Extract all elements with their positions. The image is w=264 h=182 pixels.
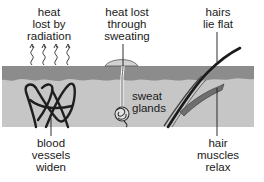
label-line: glands bbox=[132, 102, 166, 114]
label-line: hairs bbox=[190, 6, 246, 18]
label-sweat-glands: sweat glands bbox=[132, 90, 166, 114]
label-line: muscles bbox=[188, 149, 248, 161]
label-blood-vessels-widen: blood vessels widen bbox=[20, 137, 82, 173]
label-line: lost by bbox=[18, 18, 80, 30]
label-line: lie flat bbox=[190, 18, 246, 30]
label-heat-sweating: heat lost through sweating bbox=[96, 6, 158, 42]
label-hairs-lie-flat: hairs lie flat bbox=[190, 6, 246, 30]
sweat-pore-droplet bbox=[105, 60, 138, 66]
label-heat-radiation: heat lost by radiation bbox=[18, 6, 80, 42]
label-line: vessels bbox=[20, 149, 82, 161]
label-line: through bbox=[96, 18, 158, 30]
skin-diagram: heat lost by radiation heat lost through… bbox=[0, 0, 264, 182]
label-line: radiation bbox=[18, 30, 80, 42]
heat-radiation-arrows bbox=[30, 44, 70, 65]
label-line: heat bbox=[18, 6, 80, 18]
label-line: hair bbox=[188, 137, 248, 149]
label-line: sweating bbox=[96, 30, 158, 42]
label-line: relax bbox=[188, 161, 248, 173]
epidermis-layer bbox=[2, 66, 254, 81]
label-line: heat lost bbox=[96, 6, 158, 18]
label-line: widen bbox=[20, 161, 82, 173]
label-hair-muscles-relax: hair muscles relax bbox=[188, 137, 248, 173]
label-line: sweat bbox=[132, 90, 166, 102]
label-line: blood bbox=[20, 137, 82, 149]
